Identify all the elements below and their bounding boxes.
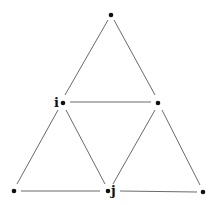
edge-top-midright: [114, 20, 155, 95]
edge-i-bottomleft: [17, 110, 58, 184]
edge-j-bottomright: [120, 191, 197, 192]
triangle-graph-diagram: i j: [0, 0, 217, 205]
edge-midright-bottomright: [162, 110, 200, 185]
label-j: j: [110, 183, 116, 198]
edge-i-j: [66, 110, 105, 184]
label-i: i: [54, 95, 59, 110]
node-i: [61, 101, 66, 106]
node-top: [109, 13, 114, 18]
node-mid-right: [156, 101, 161, 106]
node-bottom-right: [201, 190, 206, 195]
nodes: [12, 13, 206, 195]
edge-top-i: [65, 20, 108, 95]
edge-midright-j: [113, 110, 155, 184]
edges: [17, 20, 200, 192]
node-bottom-left: [12, 189, 17, 194]
node-j: [106, 189, 111, 194]
